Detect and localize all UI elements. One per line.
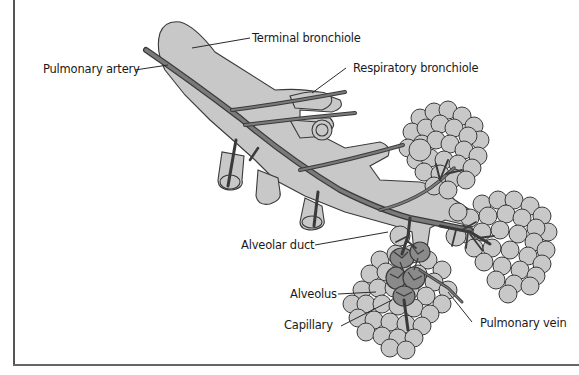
alveolar-sac-right [449, 191, 557, 303]
label-pulmonary-vein: Pulmonary vein [480, 316, 567, 330]
label-respiratory-bronchiole: Respiratory bronchiole [353, 61, 478, 75]
label-capillary: Capillary [284, 318, 333, 332]
label-pulmonary-artery: Pulmonary artery [43, 62, 140, 76]
label-alveolus: Alveolus [290, 287, 337, 301]
label-terminal-bronchiole: Terminal bronchiole [252, 31, 361, 45]
label-alveolar-duct: Alveolar duct [241, 238, 314, 252]
